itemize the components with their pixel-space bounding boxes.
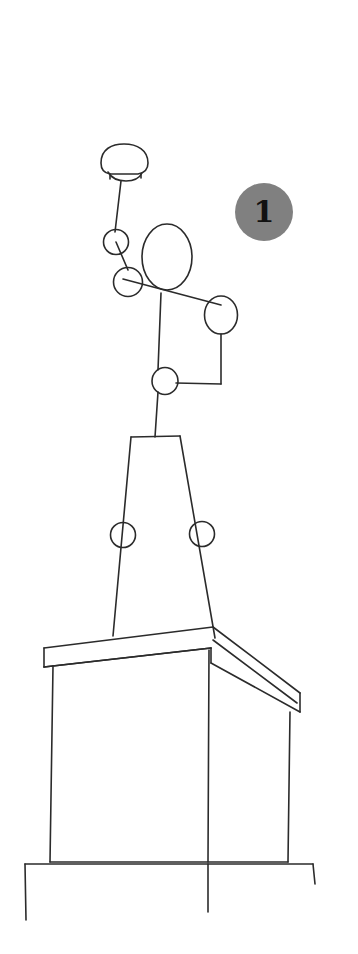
waist-circle-part xyxy=(152,368,178,395)
figure-drawing-canvas xyxy=(0,0,358,954)
pedestal-cornice-part xyxy=(44,627,300,712)
trapezoid-body-part xyxy=(113,436,215,638)
torso-line xyxy=(158,293,161,370)
right-arm-circle-part xyxy=(205,296,238,334)
pedestal-body-part xyxy=(50,650,290,862)
body-circle-right-part xyxy=(190,522,215,547)
upper-link-line xyxy=(116,242,128,270)
shoulder-circle-part xyxy=(114,268,143,297)
marker-badge-label: 1 xyxy=(254,197,275,227)
neck-line-part xyxy=(115,181,121,232)
arm-line-lower-horizontal xyxy=(176,383,221,384)
marker-badge-1[interactable]: 1 xyxy=(235,183,293,241)
cap-dome-part xyxy=(101,144,148,181)
pedestal-base-part xyxy=(25,864,315,920)
head-ellipse-part xyxy=(142,224,192,290)
leg-line xyxy=(155,392,158,437)
